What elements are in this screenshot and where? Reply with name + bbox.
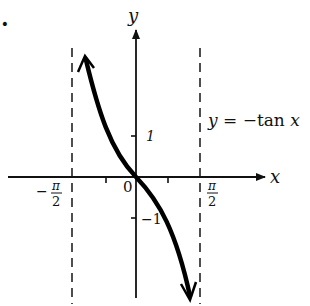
x-axis-label: x: [270, 166, 280, 187]
equation-label: y = −tan x: [207, 110, 300, 130]
pos-pi-num: π: [207, 179, 217, 193]
origin-label: 0: [123, 178, 133, 196]
y-axis-label: y: [127, 5, 139, 26]
bullet-label: .: [1, 5, 9, 31]
y-tick-label-neg: −1: [141, 211, 162, 227]
equation-lhs: y: [207, 110, 218, 130]
equation-rhs: = −tan: [218, 110, 291, 130]
y-tick-label-pos: 1: [146, 128, 155, 144]
neg-pi-den: 2: [52, 194, 60, 209]
neg-pi-num: π: [51, 179, 61, 193]
tan-curve: [86, 60, 190, 296]
neg-sign: −: [36, 183, 48, 199]
pos-pi-den: 2: [208, 194, 216, 209]
equation-var: x: [290, 110, 300, 130]
tangent-graph: . y x 0 1 −1 − π 2 π 2 y = −tan x: [0, 0, 310, 306]
